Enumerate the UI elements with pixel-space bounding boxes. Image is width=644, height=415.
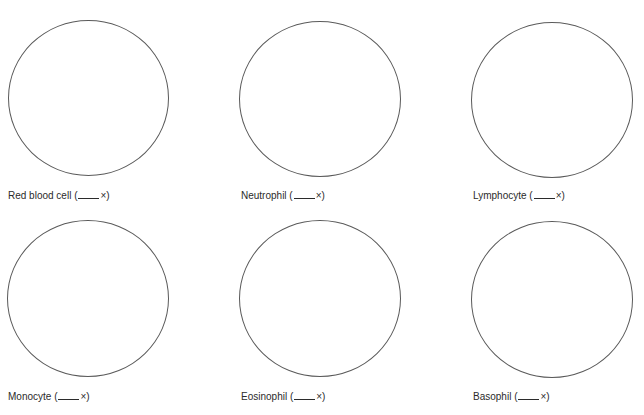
label-neutrophil: Neutrophil (×) — [241, 190, 325, 202]
drawing-circle-red-blood-cell[interactable] — [8, 20, 169, 176]
magnification-blank[interactable] — [534, 190, 555, 199]
drawing-circle-monocyte[interactable] — [7, 220, 169, 377]
magnification-suffix: × — [316, 391, 322, 402]
label-red-blood-cell: Red blood cell (×) — [8, 190, 110, 202]
label-lymphocyte: Lymphocyte (×) — [473, 190, 565, 202]
label-monocyte: Monocyte (×) — [8, 391, 90, 403]
label-basophil: Basophil (×) — [473, 391, 550, 403]
drawing-circle-eosinophil[interactable] — [239, 220, 401, 377]
magnification-blank[interactable] — [518, 391, 539, 400]
magnification-suffix: × — [100, 190, 106, 201]
cell-name: Monocyte — [8, 391, 51, 402]
label-eosinophil: Eosinophil (×) — [241, 391, 325, 403]
magnification-suffix: × — [80, 391, 86, 402]
magnification-blank[interactable] — [294, 190, 315, 199]
drawing-circle-neutrophil[interactable] — [239, 21, 401, 177]
magnification-blank[interactable] — [78, 190, 99, 199]
cell-name: Eosinophil — [241, 391, 287, 402]
magnification-suffix: × — [556, 190, 562, 201]
magnification-blank[interactable] — [294, 391, 315, 400]
magnification-suffix: × — [316, 190, 322, 201]
drawing-circle-basophil[interactable] — [471, 221, 633, 378]
cell-name: Red blood cell — [8, 190, 71, 201]
cell-name: Basophil — [473, 391, 511, 402]
magnification-suffix: × — [540, 391, 546, 402]
magnification-blank[interactable] — [58, 391, 79, 400]
cell-name: Lymphocyte — [473, 190, 527, 201]
drawing-circle-lymphocyte[interactable] — [471, 22, 633, 178]
cell-name: Neutrophil — [241, 190, 287, 201]
